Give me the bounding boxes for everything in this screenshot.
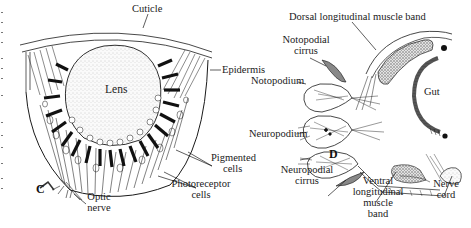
label-pigmented-line1: Pigmented — [211, 152, 256, 163]
dorsal-dot-marker — [441, 45, 447, 51]
label-pigmented-cells: Pigmented cells — [211, 152, 256, 174]
label-ventral-line1: Ventral — [348, 175, 408, 186]
label-nerve-line2: cord — [426, 189, 466, 200]
label-gut: Gut — [424, 86, 440, 97]
label-photoreceptor-line1: Photoreceptor — [167, 178, 235, 189]
label-epidermis: Epidermis — [222, 64, 265, 75]
panel-c-eye — [20, 14, 221, 204]
label-cuticle: Cuticle — [132, 3, 162, 14]
label-optic-nerve: Optic nerve — [84, 191, 114, 213]
ventral-dot-marker — [442, 133, 447, 138]
label-ventral-line4: band — [348, 208, 408, 219]
label-dorsal-longitudinal-muscle-band: Dorsal longitudinal muscle band — [289, 11, 426, 22]
label-ventral-line2: longitudinal — [348, 186, 408, 197]
label-lens: Lens — [105, 84, 127, 95]
label-ventral-line3: muscle — [348, 197, 408, 208]
label-neuropodial-line2: cirrus — [278, 175, 336, 186]
label-photoreceptor-cells: Photoreceptor cells — [167, 178, 235, 200]
label-nerve-cord: Nerve cord — [426, 178, 466, 200]
label-neuropodial-cirrus: Neuropodial cirrus — [278, 164, 336, 186]
label-photoreceptor-line2: cells — [167, 189, 235, 200]
label-neuropodium: Neuropodium — [249, 128, 307, 139]
label-notopodial-cirrus: Notopodial cirrus — [278, 34, 334, 56]
panel-label-d: D — [329, 147, 338, 162]
label-pigmented-line2: cells — [211, 163, 256, 174]
panel-label-c: C — [36, 182, 45, 197]
label-neuropodial-line1: Neuropodial — [278, 164, 336, 175]
label-notopodial-line2: cirrus — [278, 45, 334, 56]
label-notopodium: Notopodium — [251, 75, 304, 86]
label-optic-line1: Optic — [84, 191, 114, 202]
label-optic-line2: nerve — [84, 202, 114, 213]
label-ventral-longitudinal-muscle-band: Ventral longitudinal muscle band — [348, 175, 408, 219]
label-nerve-line1: Nerve — [426, 178, 466, 189]
label-notopodial-line1: Notopodial — [278, 34, 334, 45]
